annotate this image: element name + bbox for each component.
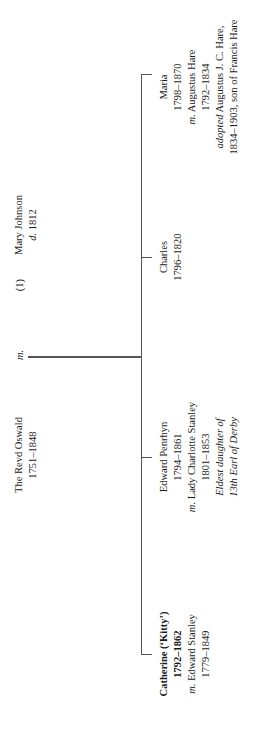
father-entry: The Revd Oswald 1751–1848 — [12, 395, 40, 515]
mother-name: Mary Johnson — [12, 195, 26, 255]
marriage-marker-text: m. — [13, 350, 27, 360]
child-dates: 1794–1861 — [171, 433, 185, 480]
spouse-name: Edward Stanley — [186, 614, 197, 681]
child-name: Edward Penrhyn — [157, 422, 171, 492]
child-name: Maria — [157, 74, 171, 99]
child-dates: 1792–1862 — [171, 630, 185, 677]
spouse-prefix: m. — [186, 684, 197, 694]
tick-maria — [141, 74, 152, 76]
adopted-prefix: adopted — [214, 115, 225, 149]
child-charles: Charles 1796–1820 — [157, 207, 185, 307]
child-edward: Edward Penrhyn 1794–1861 m. Lady Charlot… — [157, 392, 241, 522]
spouse-name: Augustus Hare — [186, 50, 197, 113]
tick-catherine — [141, 654, 152, 656]
mother-index-text: (1) — [13, 279, 27, 291]
tick-charles — [141, 257, 152, 259]
spouse-dates: 1779–1849 — [199, 630, 213, 677]
child-name: Catherine (‘Kitty’) — [157, 612, 171, 697]
mother-entry: Mary Johnson d. 1812 — [12, 170, 40, 280]
spouse-dates: 1801–1853 — [199, 433, 213, 480]
spouse-prefix: m. — [186, 114, 197, 124]
child-maria: Maria 1798–1870 m. Augustus Hare 1792–18… — [157, 2, 241, 172]
mother-dates-value: 1812 — [27, 209, 38, 230]
marriage-connector-line — [28, 356, 141, 358]
father-name: The Revd Oswald — [12, 417, 26, 493]
adopted-name: Augustus J. C. Hare, — [214, 26, 225, 113]
spouse-line: m. Augustus Hare — [185, 50, 199, 125]
child-dates: 1798–1870 — [171, 63, 185, 110]
child-name: Charles — [157, 241, 171, 273]
marriage-marker: m. — [13, 340, 27, 370]
sibling-bar-line — [141, 74, 143, 655]
spouse-note-1: Eldest daughter of — [213, 418, 227, 496]
mother-dates-prefix: d. — [27, 233, 38, 241]
spouse-line: m. Lady Charlotte Stanley — [185, 402, 199, 512]
spouse-note-2: 13th Earl of Derby — [227, 417, 241, 497]
adopted-line-2: 1834–1903, son of Francis Hare — [227, 19, 241, 154]
father-dates: 1751–1848 — [26, 431, 40, 478]
spouse-dates: 1792–1834 — [199, 63, 213, 110]
child-catherine: Catherine (‘Kitty’) 1792–1862 m. Edward … — [157, 594, 213, 714]
spouse-name: Lady Charlotte Stanley — [186, 402, 197, 499]
mother-dates: d. 1812 — [26, 209, 40, 241]
spouse-line: m. Edward Stanley — [185, 614, 199, 694]
child-dates: 1796–1820 — [171, 233, 185, 280]
tick-edward — [141, 457, 152, 459]
spouse-prefix: m. — [186, 502, 197, 512]
adopted-line: adopted Augustus J. C. Hare, — [213, 26, 227, 149]
